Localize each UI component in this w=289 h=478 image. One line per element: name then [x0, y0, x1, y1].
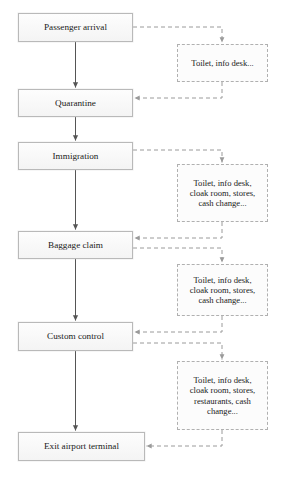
connector-arrival-to-services-1	[133, 27, 222, 43]
connector-immigration-to-services-2	[133, 150, 222, 163]
node-services-2-label: Toilet, info desk, cloak room, stores, c…	[187, 178, 258, 208]
node-baggage-claim-label: Baggage claim	[45, 240, 106, 251]
connector-services-1-to-quarantine	[135, 82, 223, 98]
node-quarantine[interactable]: Quarantine	[18, 89, 133, 117]
node-quarantine-label: Quarantine	[52, 98, 99, 109]
node-exit-airport-terminal-label: Exit airport terminal	[41, 441, 122, 452]
node-custom-control[interactable]: Custom control	[18, 322, 133, 351]
flowchart-canvas: Passenger arrival Quarantine Immigration…	[0, 0, 289, 478]
node-services-1-label: Toilet, info desk...	[188, 58, 256, 68]
node-services-1[interactable]: Toilet, info desk...	[177, 44, 268, 82]
node-services-2[interactable]: Toilet, info desk, cloak room, stores, c…	[177, 164, 268, 222]
node-exit-airport-terminal[interactable]: Exit airport terminal	[18, 432, 145, 461]
node-services-3-label: Toilet, info desk, cloak room, stores, c…	[187, 275, 258, 305]
node-custom-control-label: Custom control	[44, 331, 107, 342]
node-services-3[interactable]: Toilet, info desk, cloak room, stores, c…	[177, 264, 268, 316]
connector-baggage-to-services-3	[133, 248, 222, 263]
connector-custom-to-services-4	[133, 343, 222, 360]
node-passenger-arrival[interactable]: Passenger arrival	[18, 13, 133, 42]
connector-services-2-to-baggage	[135, 222, 223, 238]
node-baggage-claim[interactable]: Baggage claim	[18, 231, 133, 259]
node-services-4[interactable]: Toilet, info desk, cloak room, stores, r…	[177, 361, 268, 430]
node-services-4-label: Toilet, info desk, cloak room, stores, r…	[187, 375, 258, 416]
connector-services-4-to-exit	[147, 430, 223, 446]
connector-services-3-to-custom	[135, 316, 223, 332]
node-immigration-label: Immigration	[50, 151, 102, 162]
node-immigration[interactable]: Immigration	[18, 142, 133, 170]
node-passenger-arrival-label: Passenger arrival	[41, 22, 110, 33]
